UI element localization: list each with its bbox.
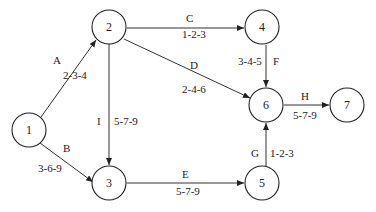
node-label-2: 2 [106,20,112,34]
estimate-label-h: 5-7-9 [293,109,317,121]
node-2: 2 [92,10,126,44]
activity-label-a: A [53,54,61,66]
node-4: 4 [245,10,279,44]
edge-e: E 5-7-9 [127,168,244,197]
node-5: 5 [245,166,279,200]
activity-label-c: C [186,12,193,24]
activity-label-g: G [251,147,259,159]
edge-b: B 3-6-9 [38,142,93,182]
edge-g: G 1-2-3 [251,123,294,166]
node-label-3: 3 [106,176,112,190]
estimate-label-f: 3-4-5 [238,55,262,67]
node-label-5: 5 [259,176,265,190]
network-diagram: A 2-3-4 B 3-6-9 C 1-2-3 D 2-4-6 I 5-7-9 … [0,0,376,212]
estimate-label-a: 2-3-4 [63,69,87,81]
edge-d: D 2-4-6 [124,39,250,98]
node-7: 7 [330,88,364,122]
node-label-4: 4 [259,20,265,34]
estimate-label-b: 3-6-9 [38,162,62,174]
node-label-7: 7 [344,98,350,112]
activity-label-i: I [97,115,101,127]
edge-a: A 2-3-4 [41,40,96,117]
activity-label-h: H [301,90,309,102]
estimate-label-e: 5-7-9 [176,185,200,197]
edge-h: H 5-7-9 [284,90,329,121]
estimate-label-d: 2-4-6 [182,83,206,95]
activity-label-e: E [182,168,189,180]
activity-label-d: D [190,59,198,71]
node-3: 3 [92,166,126,200]
node-label-1: 1 [26,123,32,137]
estimate-label-i: 5-7-9 [114,115,138,127]
activity-label-b: B [63,142,70,154]
edge-f: F 3-4-5 [238,45,279,87]
node-6: 6 [249,88,283,122]
estimate-label-c: 1-2-3 [182,28,206,40]
edge-c: C 1-2-3 [127,12,244,40]
edge-i: I 5-7-9 [97,44,138,165]
estimate-label-g: 1-2-3 [270,147,294,159]
node-1: 1 [12,113,46,147]
activity-label-f: F [273,55,279,67]
node-label-6: 6 [263,98,269,112]
